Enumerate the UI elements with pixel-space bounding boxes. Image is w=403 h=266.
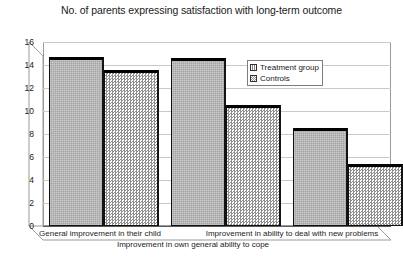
x-label-category-3: Improvement in ability to deal with new … [206, 229, 379, 238]
bar-controls-group-2 [226, 105, 281, 226]
y-tick-14: 14 [25, 60, 34, 70]
chart-title: No. of parents expressing satisfaction w… [0, 4, 403, 16]
x-label-category-1: General improvement in their child [39, 229, 161, 238]
legend-label-treatment: Treatment group [260, 63, 319, 72]
x-label-category-2: Improvement in own general ability to co… [117, 240, 269, 249]
legend-item-treatment-group: Treatment group [250, 63, 319, 72]
y-tick-2: 2 [29, 198, 34, 208]
bar-chart: No. of parents expressing satisfaction w… [0, 0, 403, 266]
bar-controls-group-1 [104, 70, 159, 226]
y-tick-10: 10 [25, 106, 34, 116]
gridline-0 [43, 226, 391, 227]
legend-swatch-icon-controls [250, 75, 257, 82]
y-tick-12: 12 [25, 83, 34, 93]
chart-legend: Treatment group Controls [247, 60, 323, 86]
legend-label-controls: Controls [260, 74, 290, 83]
legend-swatch-icon-treatment [250, 64, 257, 71]
x-axis-labels: General improvement in their child Impro… [0, 228, 403, 266]
y-tick-16: 16 [25, 37, 34, 47]
legend-item-controls: Controls [250, 74, 319, 83]
y-axis: 16 14 12 10 8 6 4 2 0 [0, 42, 40, 226]
y-tick-6: 6 [29, 152, 34, 162]
bar-treatment-group-2 [171, 58, 226, 226]
bar-treatment-group-1 [49, 57, 104, 226]
y-tick-8: 8 [29, 129, 34, 139]
bar-treatment-group-3 [293, 128, 348, 226]
bars-layer [43, 42, 391, 226]
bar-controls-group-3 [348, 164, 403, 226]
y-tick-4: 4 [29, 175, 34, 185]
